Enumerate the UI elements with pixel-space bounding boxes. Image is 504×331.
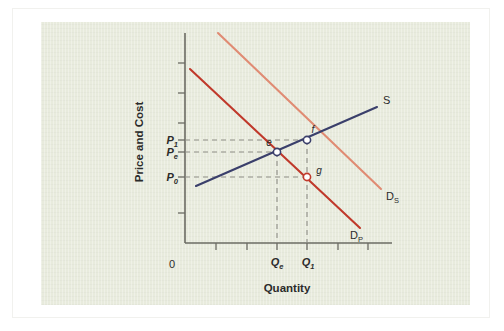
figure-root: e f g S DS DP P1 Pe P0 — [0, 0, 504, 331]
guide-lines-group — [185, 140, 307, 243]
y-axis-ticks — [178, 63, 185, 213]
x-axis-ticks — [216, 243, 368, 250]
x-tick-q1-sub: 1 — [310, 262, 314, 271]
x-tick-qe-sub: e — [279, 262, 283, 271]
x-tick-label-qe: Qe — [271, 256, 284, 271]
x-axis-title: Quantity — [264, 282, 311, 294]
point-f-marker — [303, 136, 310, 143]
point-e-label: e — [266, 137, 272, 148]
demand-private-label-main: D — [350, 229, 358, 241]
demand-private-label-sub: P — [358, 235, 363, 244]
x-tick-labels-group: Qe Q1 — [271, 256, 315, 271]
origin-label: 0 — [169, 258, 175, 270]
y-tick-pe-sub: e — [174, 152, 178, 161]
point-e-marker — [273, 148, 280, 155]
y-tick-labels-group: P1 Pe P0 — [166, 134, 178, 186]
x-tick-label-q1: Q1 — [302, 256, 315, 271]
point-g-marker — [303, 173, 310, 180]
axes-group — [185, 33, 392, 243]
y-tick-p1-sub: 1 — [174, 140, 178, 149]
curves-group — [190, 33, 381, 228]
y-axis-title: Price and Cost — [133, 102, 145, 183]
demand-social-label-main: D — [386, 190, 394, 202]
y-tick-label-p0: P0 — [166, 171, 178, 186]
supply-curve — [196, 107, 377, 186]
demand-social-label-sub: S — [394, 196, 399, 205]
demand-social-label: DS — [386, 190, 399, 205]
supply-curve-label: S — [383, 94, 390, 106]
point-g-label: g — [316, 165, 322, 176]
demand-private-label: DP — [350, 229, 363, 244]
y-tick-p0-sub: 0 — [174, 177, 179, 186]
supply-demand-chart: e f g S DS DP P1 Pe P0 — [0, 0, 504, 331]
